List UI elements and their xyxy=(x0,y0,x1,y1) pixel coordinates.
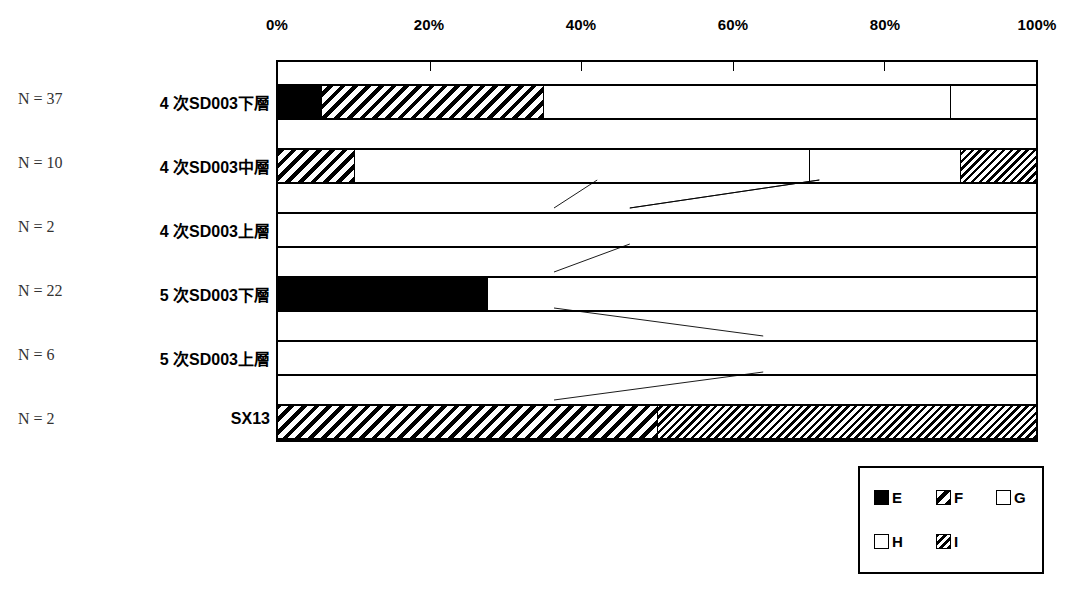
bar-segment-i xyxy=(960,150,1036,182)
legend-row: EFG xyxy=(860,482,1042,512)
bar-segment-g xyxy=(278,342,1036,374)
plot-area xyxy=(276,60,1038,442)
legend-label: H xyxy=(892,534,903,549)
x-tick-label: 60% xyxy=(718,16,749,33)
leader-line xyxy=(630,180,820,208)
legend-swatch-i-icon xyxy=(936,534,951,549)
bar-row xyxy=(278,404,1036,440)
leader-line xyxy=(554,180,597,208)
legend-item-h[interactable]: H xyxy=(874,534,903,549)
bar-row xyxy=(278,148,1036,184)
bar-segment-i xyxy=(657,406,1036,438)
legend-swatch-g-icon xyxy=(996,490,1011,505)
legend-label: I xyxy=(954,534,958,549)
row-count-label: N = 37 xyxy=(18,90,118,108)
leader-line xyxy=(554,244,630,272)
tick-mark xyxy=(430,62,431,71)
x-tick-label: 80% xyxy=(870,16,901,33)
row-count-label: N = 6 xyxy=(18,346,118,364)
leader-line xyxy=(554,308,763,336)
stacked-bar-chart: 0%20%40%60%80%100% N = 374 次SD003下層N = 1… xyxy=(0,0,1068,591)
tick-mark xyxy=(884,62,885,71)
bar-row xyxy=(278,276,1036,312)
row-category-label: 5 次SD003下層 xyxy=(112,282,270,306)
row-count-label: N = 22 xyxy=(18,282,118,300)
legend-label: E xyxy=(892,490,902,505)
legend-row: HI xyxy=(860,526,1042,556)
bar-segment-h xyxy=(809,150,961,182)
bar-segment-g xyxy=(278,214,1036,246)
tick-mark xyxy=(733,62,734,71)
bar-row xyxy=(278,212,1036,248)
row-category-label: SX13 xyxy=(112,410,270,428)
bar-segment-g xyxy=(354,150,809,182)
x-axis-tick-labels: 0%20%40%60%80%100% xyxy=(0,16,1068,40)
row-category-label: 4 次SD003下層 xyxy=(112,90,270,114)
row-count-label: N = 2 xyxy=(18,410,118,428)
row-category-label: 4 次SD003上層 xyxy=(112,218,270,242)
leader-line xyxy=(554,372,763,400)
legend-item-f[interactable]: F xyxy=(936,490,963,505)
bar-segment-f xyxy=(321,86,543,118)
bar-segment-e xyxy=(278,86,321,118)
bar-segment-h xyxy=(950,86,1036,118)
row-category-label: 5 次SD003上層 xyxy=(112,346,270,370)
tick-mark xyxy=(581,62,582,71)
row-count-label: N = 2 xyxy=(18,218,118,236)
x-tick-label: 40% xyxy=(566,16,597,33)
legend-label: G xyxy=(1014,490,1026,505)
bar-segment-g xyxy=(543,86,950,118)
legend-label: F xyxy=(954,490,963,505)
x-tick-label: 20% xyxy=(414,16,445,33)
leader-line xyxy=(630,180,820,208)
legend: EFGHI xyxy=(858,466,1044,574)
bar-segment-f xyxy=(278,406,657,438)
legend-item-g[interactable]: G xyxy=(996,490,1026,505)
bar-row xyxy=(278,84,1036,120)
bar-segment-f xyxy=(278,150,354,182)
legend-item-e[interactable]: E xyxy=(874,490,902,505)
legend-item-i[interactable]: I xyxy=(936,534,958,549)
bar-row xyxy=(278,340,1036,376)
bar-segment-g xyxy=(487,278,1036,310)
x-tick-label: 100% xyxy=(1017,16,1056,33)
legend-swatch-h-icon xyxy=(874,534,889,549)
row-count-label: N = 10 xyxy=(18,154,118,172)
row-category-label: 4 次SD003中層 xyxy=(112,154,270,178)
legend-swatch-e-icon xyxy=(874,490,889,505)
legend-swatch-f-icon xyxy=(936,490,951,505)
bar-segment-e xyxy=(278,278,487,310)
x-tick-label: 0% xyxy=(266,16,288,33)
